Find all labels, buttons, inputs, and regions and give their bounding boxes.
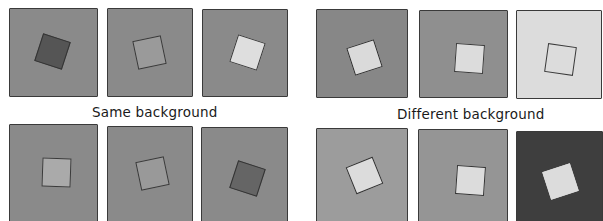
panel-same-top-2 — [107, 8, 193, 97]
caption-same-background: Same background — [92, 104, 217, 120]
square-diff-bottom-1 — [346, 157, 384, 195]
square-same-bottom-1 — [42, 158, 72, 188]
panel-diff-top-2 — [419, 10, 508, 98]
panel-diff-top-3 — [516, 10, 602, 99]
panel-same-bottom-3 — [201, 127, 288, 221]
panel-same-top-1 — [9, 8, 98, 97]
square-same-bottom-3 — [229, 160, 266, 197]
square-same-top-3 — [229, 34, 266, 71]
panel-diff-bottom-2 — [418, 129, 508, 221]
panel-diff-bottom-3 — [516, 131, 603, 221]
caption-different-background: Different background — [397, 106, 545, 122]
square-diff-bottom-2 — [455, 165, 486, 196]
panel-same-top-3 — [202, 9, 288, 97]
panel-same-bottom-2 — [107, 126, 193, 221]
square-same-top-1 — [34, 33, 71, 70]
square-same-bottom-2 — [135, 156, 169, 190]
square-diff-top-1 — [346, 39, 383, 76]
square-diff-top-2 — [454, 43, 485, 74]
panel-diff-bottom-1 — [316, 128, 408, 221]
panel-diff-top-1 — [316, 9, 408, 98]
square-diff-top-3 — [544, 43, 577, 76]
square-same-top-2 — [132, 35, 166, 69]
square-diff-bottom-3 — [542, 163, 579, 200]
panel-same-bottom-1 — [9, 124, 98, 221]
